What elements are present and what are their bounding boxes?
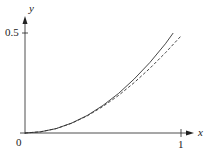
x-axis-arrow-icon: [186, 131, 194, 136]
dashed-curve: [25, 36, 181, 133]
origin-label: 0: [16, 136, 22, 148]
y-tick-label: 0.5: [5, 26, 19, 38]
solid-curve: [25, 33, 173, 133]
x-axis-label: x: [198, 126, 203, 138]
chart: y 0.5 x 1 0: [0, 0, 208, 154]
plot-area: [0, 0, 208, 154]
y-axis-arrow-icon: [23, 16, 28, 24]
y-axis: [22, 16, 28, 134]
x-axis: [20, 129, 194, 137]
y-axis-label: y: [29, 2, 34, 14]
x-tick-label: 1: [178, 138, 184, 150]
